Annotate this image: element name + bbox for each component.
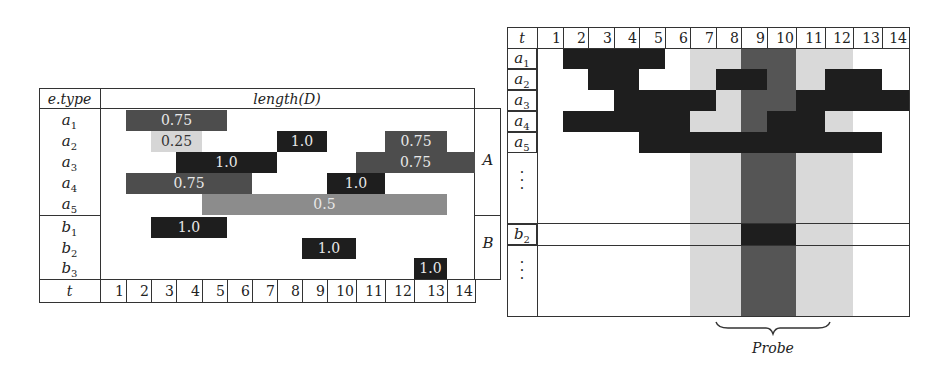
bar-a4-0: 0.75	[126, 173, 252, 194]
bar-a5-0: 0.5	[202, 194, 447, 215]
left-ab-separator-left	[39, 215, 101, 216]
bar-a2-1: 1.0	[277, 131, 327, 152]
left-tick-12: 12	[385, 279, 414, 303]
right-tick-5: 5	[639, 27, 665, 49]
row-label-b3: b3	[39, 259, 100, 279]
left-ab-separator-right	[474, 215, 501, 216]
left-tick-4: 4	[176, 279, 202, 303]
right-ellipsis-b: ···	[507, 258, 537, 282]
right-time-label: t	[507, 31, 537, 45]
left-tick-2: 2	[126, 279, 151, 303]
left-tick-7: 7	[252, 279, 277, 303]
right-tick-6: 6	[665, 27, 690, 49]
right-tick-10: 10	[767, 27, 796, 49]
right-tick-7: 7	[690, 27, 716, 49]
row-label-a5: a5	[39, 195, 100, 215]
right-tick-14: 14	[882, 27, 909, 49]
left-tick-6: 6	[227, 279, 252, 303]
left-tick-5: 5	[202, 279, 227, 303]
right-body-box	[507, 48, 910, 317]
right-tick-2: 2	[563, 27, 588, 49]
bar-a1-0: 0.75	[126, 110, 227, 131]
bar-a2-2: 0.75	[385, 131, 447, 152]
left-header-label: e.type	[39, 92, 100, 106]
bar-a3-0: 1.0	[176, 152, 277, 173]
right-tick-13: 13	[853, 27, 882, 49]
group-label-a: A	[475, 153, 501, 168]
right-row-label-a2: a2	[507, 69, 537, 90]
right-ellipsis-a: ···	[507, 168, 537, 192]
right-label-divider	[537, 27, 538, 317]
right-b2-bottom-line	[507, 245, 910, 246]
right-row-label-a4: a4	[507, 111, 537, 132]
bar-b3-0: 1.0	[414, 258, 447, 279]
right-tick-11: 11	[796, 27, 825, 49]
right-row-label-a5: a5	[507, 132, 537, 153]
left-label-divider	[100, 108, 101, 303]
left-tick-3: 3	[151, 279, 176, 303]
right-tick-9: 9	[741, 27, 767, 49]
left-tick-9: 9	[302, 279, 327, 303]
row-label-a3: a3	[39, 153, 100, 173]
row-label-b1: b1	[39, 218, 100, 238]
row-label-a4: a4	[39, 174, 100, 194]
left-tick-1: 1	[100, 279, 126, 303]
left-tick-10: 10	[327, 279, 356, 303]
right-row-label-a3: a3	[507, 90, 537, 111]
left-tick-13: 13	[414, 279, 447, 303]
left-group-divider	[474, 108, 475, 280]
bar-a3-1: 0.75	[356, 152, 475, 173]
bar-a4-1: 1.0	[327, 173, 385, 194]
row-label-b2: b2	[39, 239, 100, 259]
left-tick-11: 11	[356, 279, 385, 303]
bar-b1-0: 1.0	[151, 217, 227, 238]
left-time-label: t	[39, 284, 100, 298]
right-row-label-a1: a1	[507, 48, 537, 69]
probe-brace-icon	[714, 320, 832, 336]
bar-a2-0: 0.25	[151, 131, 202, 152]
right-tick-4: 4	[614, 27, 639, 49]
right-row-label-b2: b2	[507, 224, 537, 245]
row-label-a1: a1	[39, 111, 100, 131]
probe-label: Probe	[714, 341, 832, 355]
right-tick-1: 1	[537, 27, 563, 49]
bar-b2-0: 1.0	[302, 238, 356, 259]
right-tick-3: 3	[588, 27, 614, 49]
left-tick-14: 14	[447, 279, 475, 303]
right-b2-top-line	[507, 223, 910, 224]
row-label-a2: a2	[39, 132, 100, 152]
right-tick-8: 8	[716, 27, 741, 49]
left-tick-8: 8	[277, 279, 302, 303]
right-tick-12: 12	[825, 27, 853, 49]
group-label-b: B	[475, 236, 501, 251]
left-header-title: length(D)	[100, 92, 474, 106]
